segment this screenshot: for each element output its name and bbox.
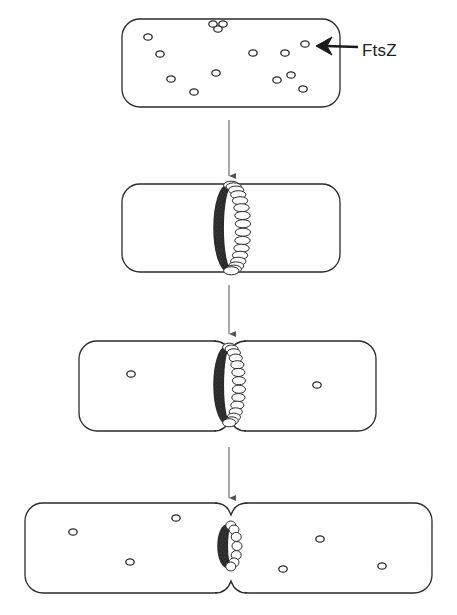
ftsz-monomer (316, 536, 324, 542)
ftsz-monomer (127, 371, 135, 377)
ftsz-division-diagram (0, 0, 457, 615)
ftsz-monomer (144, 34, 152, 40)
ftsz-monomer (190, 89, 198, 95)
cell-outline (229, 341, 376, 431)
ring-subunit-light (232, 377, 245, 385)
ftsz-monomer (378, 563, 386, 569)
cell-outline (122, 184, 340, 272)
ring-subunit-light (232, 542, 242, 551)
ftsz-monomer (313, 382, 321, 388)
stage-4 (25, 501, 432, 595)
ftsz-monomer (69, 529, 77, 535)
ftsz-monomer (301, 41, 309, 47)
ftsz-monomer (279, 566, 287, 572)
ring-subunit-light (231, 532, 241, 541)
ftsz-monomer (126, 559, 134, 565)
ftsz-monomer (167, 76, 175, 82)
ftsz-monomer (156, 51, 164, 57)
ftsz-monomer (273, 77, 281, 83)
cell-outline (122, 19, 340, 107)
ftsz-monomer (214, 26, 222, 32)
ring-subunit-light (232, 393, 245, 401)
ftsz-label: FtsZ (362, 41, 397, 61)
ring-subunit-light (235, 236, 250, 244)
cell-outline (79, 341, 231, 431)
ftsz-monomer (212, 70, 220, 76)
ring-subunit-light (234, 204, 249, 212)
ring-subunit-light (231, 361, 244, 369)
ftsz-monomer (287, 72, 295, 78)
cell-outline (25, 503, 231, 593)
stage-2 (122, 184, 340, 272)
ftsz-monomer (281, 50, 289, 56)
stage-1 (122, 19, 340, 107)
ring-subunit-light (232, 368, 245, 376)
ring-subunit-light (235, 220, 250, 228)
cell-outline (231, 503, 432, 593)
ring-subunit-light (223, 419, 236, 427)
ftsz-monomer (299, 86, 307, 92)
pointer-arrow-shaft (326, 46, 358, 47)
ring-subunit-light (232, 385, 245, 393)
ftsz-monomer (172, 515, 180, 521)
ftsz-monomer (249, 50, 257, 56)
ring-subunit-light (235, 211, 250, 219)
ring-subunit-light (226, 562, 236, 571)
ring-subunit-light (235, 228, 250, 236)
ring-subunit-light (224, 267, 239, 275)
